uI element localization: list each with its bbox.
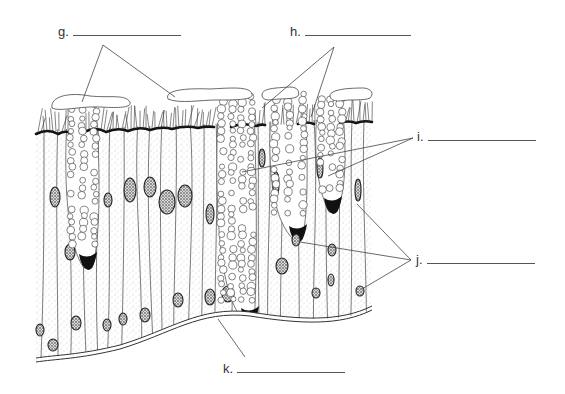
mucus-vesicle bbox=[91, 184, 97, 190]
mucus-vesicle bbox=[80, 225, 87, 232]
cilium bbox=[45, 110, 47, 132]
leader-k bbox=[218, 319, 245, 357]
answer-blank-i[interactable] bbox=[428, 139, 536, 141]
mucus-vesicle bbox=[90, 128, 97, 135]
mucus-vesicle bbox=[248, 155, 254, 161]
mucus-vesicle bbox=[240, 135, 246, 141]
mucus-vesicle bbox=[336, 128, 344, 136]
cell-nucleus bbox=[356, 286, 364, 296]
mucus-vesicle bbox=[68, 142, 73, 147]
mucus-vesicle bbox=[271, 105, 278, 112]
mucus-vesicle bbox=[229, 141, 236, 148]
mucus-vesicle bbox=[301, 91, 307, 97]
mucus-vesicle bbox=[228, 154, 234, 160]
mucus-vesicle bbox=[320, 130, 325, 135]
mucus-vesicle bbox=[249, 238, 257, 246]
mucus-vesicle bbox=[238, 241, 245, 248]
mucus-vesicle bbox=[238, 267, 243, 272]
mucus-vesicle bbox=[92, 241, 98, 247]
mucus-vesicle bbox=[217, 127, 225, 135]
tissue-illustration bbox=[0, 0, 565, 394]
mucus-vesicle bbox=[218, 120, 226, 128]
mucus-vesicle bbox=[338, 115, 346, 123]
mucus-vesicle bbox=[217, 205, 225, 213]
cell-nucleus bbox=[159, 190, 175, 214]
mucus-vesicle bbox=[81, 213, 87, 219]
mucus-vesicle bbox=[270, 195, 278, 203]
mucus-vesicle bbox=[270, 140, 278, 148]
mucus-vesicle bbox=[271, 210, 277, 216]
mucus-vesicle bbox=[249, 183, 255, 189]
mucus-vesicle bbox=[238, 297, 244, 303]
mucus-vesicle bbox=[230, 178, 236, 184]
mucus-vesicle bbox=[218, 297, 224, 303]
label-h: h. bbox=[290, 25, 411, 39]
epithelium-diagram: g. h. i. j. k. bbox=[0, 0, 565, 394]
mucus-vesicle bbox=[230, 121, 236, 127]
answer-blank-g[interactable] bbox=[73, 34, 181, 36]
mucus-vesicle bbox=[249, 114, 256, 121]
label-letter: j. bbox=[416, 253, 423, 267]
mucus-vesicle bbox=[69, 149, 76, 156]
cilium bbox=[191, 105, 192, 127]
label-letter: g. bbox=[58, 25, 69, 39]
mucus-vesicle bbox=[318, 144, 325, 151]
mucus-vesicle bbox=[318, 101, 325, 108]
mucus-vesicle bbox=[93, 191, 99, 197]
mucus-vesicle bbox=[249, 203, 256, 210]
mucus-vesicle bbox=[69, 240, 77, 248]
label-g: g. bbox=[58, 25, 181, 39]
mucus-vesicle bbox=[93, 135, 100, 142]
mucus-vesicle bbox=[286, 111, 294, 119]
mucus-vesicle bbox=[316, 108, 324, 116]
cell-nucleus bbox=[140, 308, 150, 322]
mucus-vesicle bbox=[328, 151, 333, 156]
mucus-vesicle bbox=[218, 178, 224, 184]
label-letter: h. bbox=[290, 25, 301, 39]
mucus-vesicle bbox=[328, 110, 334, 116]
mucus-vesicle bbox=[299, 96, 307, 104]
mucus-vesicle bbox=[248, 245, 256, 253]
cilium bbox=[55, 112, 56, 132]
cell-nucleus bbox=[205, 289, 215, 305]
mucus-vesicle bbox=[218, 275, 224, 281]
answer-blank-h[interactable] bbox=[305, 34, 411, 36]
mucus-vesicle bbox=[229, 261, 237, 269]
mucus-vesicle bbox=[218, 191, 224, 197]
mucus-vesicle bbox=[80, 116, 85, 121]
cell-nucleus bbox=[104, 193, 112, 207]
cilium bbox=[104, 110, 107, 130]
mucus-vesicle bbox=[229, 212, 234, 217]
mucus-vesicle bbox=[227, 289, 235, 297]
mucus-vesicle bbox=[251, 232, 256, 237]
answer-blank-k[interactable] bbox=[237, 371, 345, 373]
mucus-vesicle bbox=[68, 129, 73, 134]
mucus-vesicle bbox=[300, 189, 306, 195]
mucus-vesicle bbox=[67, 171, 74, 178]
mucus-vesicle bbox=[219, 164, 224, 169]
mucus-vesicle bbox=[339, 156, 346, 163]
cilium bbox=[62, 115, 67, 131]
mucus-vesicle bbox=[287, 125, 292, 130]
mucus-vesicle bbox=[285, 132, 292, 139]
mucus-vesicle bbox=[240, 198, 247, 205]
mucus-vesicle bbox=[247, 288, 255, 296]
mucus-vesicle bbox=[239, 275, 246, 282]
mucus-vesicle bbox=[336, 184, 344, 192]
label-j: j. bbox=[416, 253, 535, 267]
mucus-vesicle bbox=[239, 205, 247, 213]
mucus-vesicle bbox=[218, 170, 226, 178]
mucus-vesicle bbox=[287, 169, 293, 175]
mucus-vesicle bbox=[237, 127, 244, 134]
mucus-vesicle bbox=[230, 245, 237, 252]
mucus-vesicle bbox=[220, 266, 228, 274]
answer-blank-j[interactable] bbox=[427, 262, 535, 264]
mucus-vesicle bbox=[228, 217, 235, 224]
cilium bbox=[173, 107, 175, 128]
mucus-vesicle bbox=[319, 136, 325, 142]
mucus-vesicle bbox=[218, 113, 224, 119]
mucus-vesicle bbox=[220, 247, 226, 253]
mucus-vesicle bbox=[330, 143, 336, 149]
mucus-vesicle bbox=[300, 210, 306, 216]
mucus-vesicle bbox=[69, 219, 75, 225]
